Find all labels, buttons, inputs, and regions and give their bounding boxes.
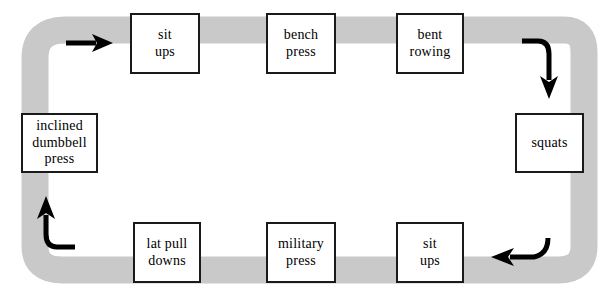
circuit-training-diagram: sit ups bench press bent rowing squats s… <box>0 0 598 298</box>
node-label: sit ups <box>153 27 177 60</box>
node-label: squats <box>529 135 569 152</box>
node-label: bench press <box>282 27 320 60</box>
node-squats[interactable]: squats <box>515 113 584 173</box>
node-inclined-dumbbell-press[interactable]: inclined dumbbell press <box>21 113 98 173</box>
node-label: sit ups <box>418 236 442 269</box>
node-military-press[interactable]: military press <box>266 222 336 283</box>
node-label: military press <box>276 236 326 269</box>
node-label: bent rowing <box>408 27 453 60</box>
node-bench-press[interactable]: bench press <box>266 13 336 74</box>
node-lat-pull-downs[interactable]: lat pull downs <box>133 222 201 283</box>
node-label: lat pull downs <box>145 236 190 269</box>
node-sit-ups-top[interactable]: sit ups <box>130 13 200 74</box>
node-bent-rowing[interactable]: bent rowing <box>396 13 464 74</box>
node-label: inclined dumbbell press <box>30 118 88 168</box>
node-sit-ups-bottom[interactable]: sit ups <box>396 222 464 283</box>
